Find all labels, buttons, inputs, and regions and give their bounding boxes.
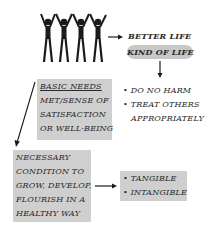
tangible-types-box: • TANGIBLE • INTANGIBLE — [120, 171, 187, 201]
necessary-line: HEALTHY WAY — [16, 207, 91, 221]
basic-needs-line: MET/SENSE OF — [40, 94, 112, 108]
necessary-line: FLOURISH IN A — [16, 193, 91, 207]
necessary-line: GROW, DEVELOP, — [16, 179, 91, 193]
type-item: • INTANGIBLE — [123, 186, 187, 200]
basic-needs-line: SATISFACTION — [40, 108, 112, 122]
kind-of-life-pill: KIND OF LIFE — [127, 45, 193, 59]
type-label: TANGIBLE — [131, 174, 177, 183]
principle-item-continued: APPROPRIATELY — [123, 112, 204, 126]
basic-needs-box: BASIC NEEDS MET/SENSE OF SATISFACTION OR… — [37, 79, 112, 140]
arrow-right-icon — [108, 35, 123, 40]
type-item: • TANGIBLE — [123, 172, 187, 186]
bullet-icon: • — [123, 86, 128, 95]
basic-needs-heading: BASIC NEEDS — [40, 80, 112, 94]
principles-list: • DO NO HARM • TREAT OTHERS APPROPRIATEL… — [123, 84, 204, 126]
arrow-down-icon — [158, 61, 163, 78]
principle-label: TREAT OTHERS — [131, 100, 200, 109]
bullet-icon: • — [123, 100, 128, 109]
necessary-line: NECESSARY — [16, 151, 91, 165]
necessary-condition-box: NECESSARY CONDITION TO GROW, DEVELOP, FL… — [13, 150, 91, 222]
arrow-right-icon — [95, 184, 117, 189]
basic-needs-line: OR WELL-BEING — [40, 122, 112, 136]
kind-of-life-label: KIND OF LIFE — [127, 45, 193, 59]
principle-label: DO NO HARM — [131, 86, 192, 95]
principle-item: • DO NO HARM — [123, 84, 204, 98]
better-life-label: BETTER LIFE — [128, 29, 191, 43]
bullet-icon: • — [123, 188, 128, 197]
principle-item: • TREAT OTHERS — [123, 98, 204, 112]
principle-label: APPROPRIATELY — [131, 114, 204, 123]
bullet-icon: • — [123, 174, 128, 183]
people-group-icon — [41, 14, 106, 62]
type-label: INTANGIBLE — [131, 188, 187, 197]
necessary-line: CONDITION TO — [16, 165, 91, 179]
arrow-diagonal-icon — [15, 82, 36, 147]
